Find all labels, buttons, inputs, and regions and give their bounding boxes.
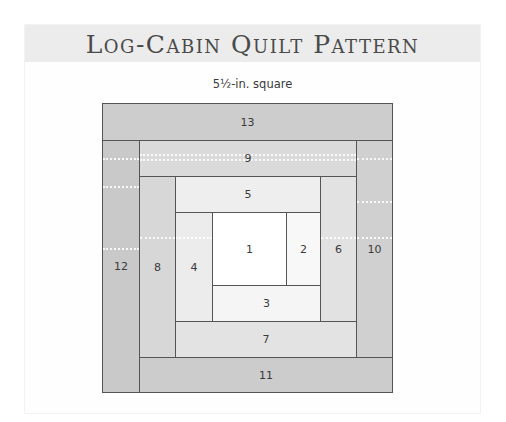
dimension-label: 5½-in. square xyxy=(25,77,480,91)
title-bar: Log-Cabin Quilt Pattern xyxy=(25,25,480,62)
piece-label: 7 xyxy=(263,333,270,346)
piece-label: 10 xyxy=(368,243,382,256)
piece-label: 3 xyxy=(263,297,270,310)
piece-8: 8 xyxy=(139,176,176,358)
piece-label: 11 xyxy=(259,369,273,382)
piece-10: 10 xyxy=(356,140,393,358)
piece-label: 6 xyxy=(335,243,342,256)
piece-1-center: 1 xyxy=(212,212,287,286)
piece-3: 3 xyxy=(212,285,321,322)
piece-5: 5 xyxy=(175,176,321,213)
piece-label: 2 xyxy=(300,243,307,256)
piece-6: 6 xyxy=(320,176,357,322)
piece-4: 4 xyxy=(175,212,213,322)
piece-label: 4 xyxy=(191,261,198,274)
quilt-block: 13 12 11 10 9 8 xyxy=(102,103,393,393)
piece-11: 11 xyxy=(139,357,393,393)
piece-label: 9 xyxy=(245,152,252,165)
figure-frame: Log-Cabin Quilt Pattern 5½-in. square 13… xyxy=(25,25,480,413)
figure-title: Log-Cabin Quilt Pattern xyxy=(86,32,420,57)
piece-label: 12 xyxy=(114,260,128,273)
piece-label: 5 xyxy=(245,188,252,201)
piece-label: 13 xyxy=(241,116,255,129)
piece-7: 7 xyxy=(175,321,357,358)
piece-13: 13 xyxy=(102,103,393,141)
piece-label: 8 xyxy=(154,261,161,274)
piece-9: 9 xyxy=(139,140,357,177)
piece-label: 1 xyxy=(246,243,253,256)
piece-2: 2 xyxy=(286,212,321,286)
piece-12: 12 xyxy=(102,140,140,393)
